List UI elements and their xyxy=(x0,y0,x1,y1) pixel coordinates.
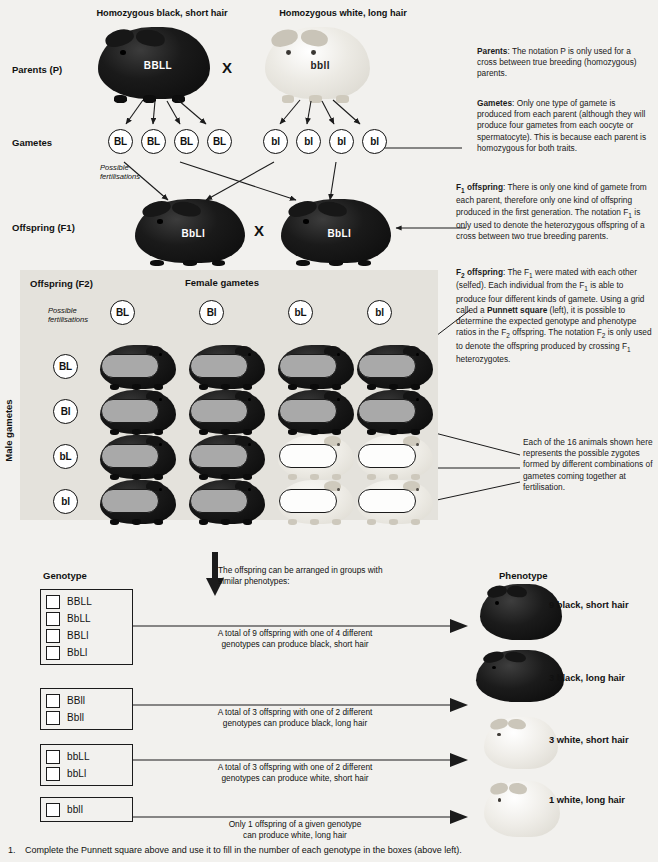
genotype-label: bbLl xyxy=(67,768,86,779)
eye-icon xyxy=(337,488,340,491)
genotype-count-input-4-1[interactable] xyxy=(46,803,60,817)
foot-icon xyxy=(154,519,163,525)
punnett-cell-r3-c4[interactable] xyxy=(357,435,433,479)
f1-pig-left: BbLl xyxy=(135,199,245,263)
genotype-write-in-slot[interactable] xyxy=(190,354,248,378)
foot-icon xyxy=(114,95,127,102)
eye-icon xyxy=(286,50,291,55)
gamete-circle-p-left-4: BL xyxy=(207,129,232,154)
genotype-header: Genotype xyxy=(43,570,87,581)
eye-icon xyxy=(157,219,163,223)
genotype-count-input-1-2[interactable] xyxy=(46,612,60,626)
eye-icon xyxy=(495,601,499,605)
punnett-row-gamete-2: Bl xyxy=(53,399,78,424)
foot-icon xyxy=(336,95,349,102)
genotype-write-in-slot[interactable] xyxy=(101,354,159,378)
parent-right-header: Homozygous white, long hair xyxy=(243,8,443,18)
punnett-cell-r4-c3[interactable] xyxy=(278,480,354,524)
genotype-write-in-slot[interactable] xyxy=(279,444,337,468)
punnett-cell-r1-c3[interactable] xyxy=(278,345,354,389)
note-f2-text-a: : The F xyxy=(503,267,529,277)
punnett-cell-r2-c2[interactable] xyxy=(189,390,265,434)
punnett-cell-r1-c1[interactable] xyxy=(100,345,176,389)
genotype-write-in-slot[interactable] xyxy=(279,399,337,423)
foot-icon xyxy=(143,95,156,102)
genotype-label: bbll xyxy=(67,804,83,815)
eye-icon xyxy=(337,443,340,446)
genotype-row: BbLL xyxy=(46,610,127,627)
note-f1-title-rest: offspring xyxy=(465,182,503,192)
genotype-count-input-1-4[interactable] xyxy=(46,646,60,660)
group-description-2: A total of 3 offspring with one of 2 dif… xyxy=(160,707,430,729)
phenotype-pig-3 xyxy=(484,717,558,769)
note-parents-title: Parents xyxy=(477,46,507,56)
genotype-write-in-slot[interactable] xyxy=(358,489,416,513)
f1-left-genotype: BbLl xyxy=(181,228,205,239)
genotype-write-in-slot[interactable] xyxy=(190,399,248,423)
eye-icon xyxy=(159,488,162,491)
f1-pig-right: BbLl xyxy=(281,199,391,263)
genotype-write-in-slot[interactable] xyxy=(190,444,248,468)
note-f2-sub5: 1 xyxy=(627,345,631,352)
punnett-cell-r2-c1[interactable] xyxy=(100,390,176,434)
genotype-row: Bbll xyxy=(46,709,127,726)
genotype-row: BBll xyxy=(46,692,127,709)
punnett-cell-r3-c2[interactable] xyxy=(189,435,265,479)
ear-icon xyxy=(171,199,202,218)
foot-icon xyxy=(389,519,398,525)
genotype-row: bbLl xyxy=(46,765,127,782)
genotype-count-input-1-3[interactable] xyxy=(46,629,60,643)
foot-icon xyxy=(310,519,319,525)
genotype-write-in-slot[interactable] xyxy=(279,489,337,513)
phenotype-label-4: 1 white, long hair xyxy=(549,795,625,805)
genetics-diagram-page: Homozygous black, short hair Homozygous … xyxy=(0,0,658,862)
punnett-cell-r4-c1[interactable] xyxy=(100,480,176,524)
row-label-f1: Offspring (F1) xyxy=(12,222,75,233)
genotype-label: BBll xyxy=(67,695,85,706)
male-gametes-label: Male gametes xyxy=(3,399,14,461)
genotype-row: BbLl xyxy=(46,644,127,661)
genotype-count-input-1-1[interactable] xyxy=(46,595,60,609)
punnett-cell-r3-c3[interactable] xyxy=(278,435,354,479)
note-f2-text-e: offspring. The notation F xyxy=(510,327,602,337)
punnett-cell-r2-c3[interactable] xyxy=(278,390,354,434)
punnett-cell-r1-c2[interactable] xyxy=(189,345,265,389)
gamete-circle-p-right-1: bl xyxy=(263,129,288,154)
punnett-col-gamete-2: Bl xyxy=(199,300,224,325)
genotype-count-input-3-2[interactable] xyxy=(46,767,60,781)
ear-icon xyxy=(286,198,317,219)
phenotype-label-1: 9 black, short hair xyxy=(549,600,629,610)
foot-icon xyxy=(332,519,341,525)
eye-icon xyxy=(159,353,162,356)
genotype-write-in-slot[interactable] xyxy=(358,399,416,423)
genotype-count-input-3-1[interactable] xyxy=(46,750,60,764)
genotype-write-in-slot[interactable] xyxy=(358,354,416,378)
punnett-cell-r2-c4[interactable] xyxy=(357,390,433,434)
punnett-cell-r4-c2[interactable] xyxy=(189,480,265,524)
foot-icon xyxy=(221,519,230,525)
punnett-cell-r1-c4[interactable] xyxy=(357,345,433,389)
genotype-write-in-slot[interactable] xyxy=(358,444,416,468)
footer-number: 1. xyxy=(8,845,16,855)
genotype-write-in-slot[interactable] xyxy=(279,354,337,378)
punnett-cell-r3-c1[interactable] xyxy=(100,435,176,479)
punnett-cell-r4-c4[interactable] xyxy=(357,480,433,524)
gamete-circle-p-left-2: BL xyxy=(141,129,166,154)
genotype-write-in-slot[interactable] xyxy=(101,399,159,423)
eye-icon xyxy=(120,50,126,55)
genotype-box-3: bbLLbbLl xyxy=(40,744,133,786)
footer-text: Complete the Punnett square above and us… xyxy=(25,845,462,855)
eye-icon xyxy=(159,398,162,401)
cross-symbol-parents: X xyxy=(222,59,232,76)
genotype-count-input-2-1[interactable] xyxy=(46,694,60,708)
genotype-write-in-slot[interactable] xyxy=(101,489,159,513)
genotype-write-in-slot[interactable] xyxy=(190,489,248,513)
foot-icon xyxy=(329,260,342,266)
gamete-circle-p-right-3: bl xyxy=(329,129,354,154)
genotype-count-input-2-2[interactable] xyxy=(46,711,60,725)
punnett-row-gamete-4: bl xyxy=(53,489,78,514)
eye-icon xyxy=(337,353,340,356)
note-zygotes: Each of the 16 animals shown here repres… xyxy=(523,437,655,493)
female-gametes-label: Female gametes xyxy=(185,277,259,288)
genotype-write-in-slot[interactable] xyxy=(101,444,159,468)
